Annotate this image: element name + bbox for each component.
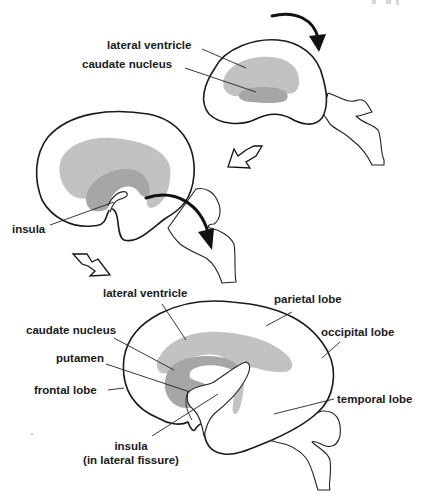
brain-development-diagram: lateral ventricle caudate nucleus insula (0, 0, 423, 498)
label-stage1-lateral-ventricle: lateral ventricle (107, 39, 191, 51)
label-stage2-insula: insula (12, 223, 46, 235)
label-stage3-temporal-lobe: temporal lobe (337, 393, 412, 405)
label-stage3-lateral-ventricle: lateral ventricle (103, 287, 187, 299)
label-stage3-caudate-nucleus: caudate nucleus (26, 324, 116, 336)
stage-1-brainstem (322, 93, 384, 165)
label-stage3-parietal-lobe: parietal lobe (274, 293, 342, 305)
stage-3-brain: lateral ventricle parietal lobe caudate … (26, 287, 412, 490)
label-stage3-insula: insula (114, 440, 148, 452)
label-stage3-insula-lateral-fissure: (in lateral fissure) (83, 454, 179, 466)
label-stage3-occipital-lobe: occipital lobe (321, 326, 395, 338)
leader-stage3-frontal-lobe (108, 388, 124, 390)
stage-2-brain: insula (12, 112, 236, 283)
stray-mark (31, 433, 33, 435)
label-stage3-frontal-lobe: frontal lobe (34, 384, 97, 396)
label-stage3-putamen: putamen (56, 352, 104, 364)
cropped-text-fragment (372, 0, 399, 5)
hollow-arrow-down-right-icon (73, 254, 110, 276)
label-stage1-caudate-nucleus: caudate nucleus (82, 58, 172, 70)
hollow-arrow-down-left-icon (228, 146, 262, 168)
